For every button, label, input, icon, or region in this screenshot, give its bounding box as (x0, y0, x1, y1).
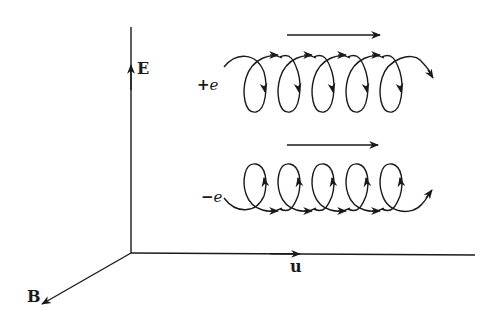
drift-diagram: E u B +e −e (0, 0, 501, 326)
u-axis-label: u (290, 259, 302, 275)
b-axis (42, 253, 131, 304)
positive-charge-trajectory (224, 55, 433, 112)
charge-symbol: e (214, 188, 223, 206)
b-axis-label: B (27, 289, 41, 305)
charge-symbol: e (210, 76, 219, 94)
u-axis (131, 253, 475, 255)
negative-charge-label: −e (201, 190, 222, 205)
positive-charge-label: +e (197, 78, 218, 93)
negative-sign: − (201, 188, 214, 206)
diagram-canvas (0, 0, 501, 326)
positive-sign: + (197, 76, 210, 94)
negative-charge-trajectory (224, 164, 432, 212)
e-axis-label: E (137, 61, 149, 77)
